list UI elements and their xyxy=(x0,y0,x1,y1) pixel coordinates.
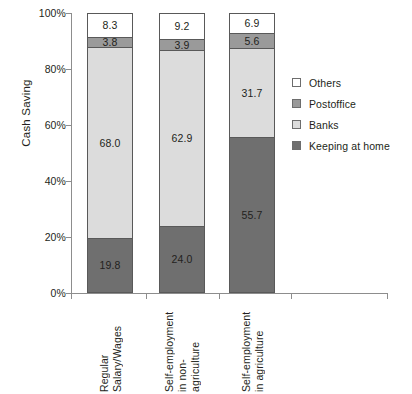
x-tick-mark-3 xyxy=(291,294,292,299)
legend-swatch-icon-banks xyxy=(292,120,301,129)
bar-segment-keeping-at-home: 19.8 xyxy=(87,238,133,293)
bar-segment-others: 9.2 xyxy=(159,13,205,39)
x-axis-label-self-employment-non-agriculture: Self-employment in non- agriculture xyxy=(155,302,209,392)
bar-segment-value-keeping-at-home: 55.7 xyxy=(242,209,263,221)
bar-segment-banks: 31.7 xyxy=(229,48,275,137)
y-tick-label-40: 40% xyxy=(22,176,66,187)
legend-item-postoffice: Postoffice xyxy=(292,93,390,114)
x-axis-label-self-employment-agriculture: Self-employment in agriculture xyxy=(229,302,275,392)
x-label-line: Self-employment xyxy=(163,302,175,392)
x-tick-mark-1 xyxy=(146,294,147,299)
legend-swatch-icon-others xyxy=(292,78,301,87)
x-axis-label-regular-salary-wages: Regular Salary/Wages xyxy=(87,302,133,392)
bar-segment-value-keeping-at-home: 24.0 xyxy=(172,253,193,265)
x-label-line: agriculture xyxy=(189,302,201,392)
bar-segment-value-keeping-at-home: 19.8 xyxy=(100,259,121,271)
bar-self-employment-agriculture: 6.9 5.6 31.7 55.7 xyxy=(229,13,275,293)
x-label-line: Salary/Wages xyxy=(111,302,123,392)
legend-item-keeping-at-home: Keeping at home xyxy=(292,135,390,156)
y-tick-label-80: 80% xyxy=(22,64,66,75)
bar-segment-value-postoffice: 3.8 xyxy=(103,37,118,48)
bar-segment-value-others: 9.2 xyxy=(175,20,190,32)
bar-segment-keeping-at-home: 55.7 xyxy=(229,137,275,293)
bar-segment-others: 6.9 xyxy=(229,13,275,32)
y-tick-label-0: 0% xyxy=(22,288,66,299)
bar-segment-keeping-at-home: 24.0 xyxy=(159,226,205,293)
legend-label-keeping-at-home: Keeping at home xyxy=(309,140,390,152)
legend-swatch-icon-keeping-at-home xyxy=(292,141,301,150)
bar-segment-value-others: 8.3 xyxy=(103,19,118,31)
bar-segment-value-postoffice: 5.6 xyxy=(245,35,260,47)
x-label-line: in agriculture xyxy=(253,302,265,392)
x-label-line: in non- xyxy=(176,302,188,392)
x-tick-mark-2 xyxy=(219,294,220,299)
bar-segment-value-banks: 68.0 xyxy=(100,137,121,149)
stacked-bar-chart: Cash Saving 100% 80% 60% 40% 20% 0% 8.3 … xyxy=(0,0,412,394)
legend-label-postoffice: Postoffice xyxy=(309,98,356,110)
y-tick-label-20: 20% xyxy=(22,232,66,243)
bar-segment-others: 8.3 xyxy=(87,13,133,36)
legend-item-banks: Banks xyxy=(292,114,390,135)
y-tick-label-100: 100% xyxy=(22,8,66,19)
bar-segment-postoffice: 3.9 xyxy=(159,39,205,50)
bar-segment-value-others: 6.9 xyxy=(245,17,260,29)
x-tick-mark-4 xyxy=(387,294,388,299)
bar-segment-banks: 62.9 xyxy=(159,50,205,226)
bar-segment-value-postoffice: 3.9 xyxy=(175,39,190,50)
x-tick-mark-0 xyxy=(71,294,72,299)
x-label-line: Regular xyxy=(98,302,110,392)
bar-self-employment-non-agriculture: 9.2 3.9 62.9 24.0 xyxy=(159,13,205,293)
bar-segment-postoffice: 3.8 xyxy=(87,37,133,48)
bar-regular-salary-wages: 8.3 3.8 68.0 19.8 xyxy=(87,13,133,293)
x-axis-line xyxy=(71,293,388,294)
legend-swatch-icon-postoffice xyxy=(292,99,301,108)
chart-legend: Others Postoffice Banks Keeping at home xyxy=(292,72,390,156)
y-tick-label-60: 60% xyxy=(22,120,66,131)
legend-label-banks: Banks xyxy=(309,119,339,131)
bar-segment-banks: 68.0 xyxy=(87,47,133,237)
y-axis-line xyxy=(71,13,72,294)
x-label-line: Self-employment xyxy=(240,302,252,392)
bar-segment-value-banks: 31.7 xyxy=(242,87,263,99)
bar-segment-postoffice: 5.6 xyxy=(229,33,275,49)
bar-segment-value-banks: 62.9 xyxy=(172,132,193,144)
legend-label-others: Others xyxy=(309,77,341,89)
legend-item-others: Others xyxy=(292,72,390,93)
